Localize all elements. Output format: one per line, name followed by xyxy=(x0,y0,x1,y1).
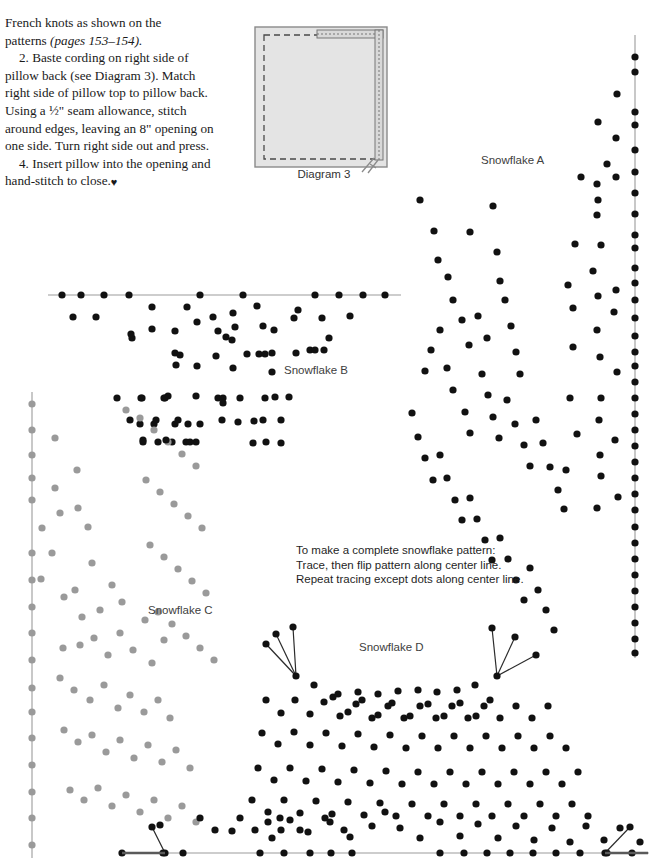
knot-dot xyxy=(466,494,473,501)
knot-dot xyxy=(631,506,638,513)
knot-dot xyxy=(446,768,453,775)
knot-dot xyxy=(532,416,539,423)
knot-dot xyxy=(74,738,81,745)
knot-dot xyxy=(158,758,165,765)
knot-dot xyxy=(136,808,143,815)
knot-dot xyxy=(636,838,643,845)
knot-dot xyxy=(148,325,155,332)
knot-dot xyxy=(176,351,183,358)
knot-dot xyxy=(600,836,607,843)
knot-dot xyxy=(374,690,381,697)
knot-dot xyxy=(429,476,436,483)
knot-dot xyxy=(184,512,191,519)
knot-dot xyxy=(286,816,293,823)
knot-dot xyxy=(328,810,335,817)
knot-dot xyxy=(37,575,44,582)
knot-dot xyxy=(444,273,451,280)
knot-dot xyxy=(88,731,95,738)
knot-dot xyxy=(443,364,450,371)
knot-dot xyxy=(228,827,235,834)
knot-dot xyxy=(461,408,468,415)
knot-dot xyxy=(631,523,638,530)
knot-dot xyxy=(141,616,148,623)
series-snowflake-d-spray-right xyxy=(488,624,539,679)
knot-dot xyxy=(256,849,263,856)
knot-dot xyxy=(529,849,536,856)
knot-dot xyxy=(614,493,621,500)
knot-dot xyxy=(631,362,638,369)
knot-dot xyxy=(631,68,638,75)
knot-dot xyxy=(285,393,292,400)
knot-dot xyxy=(464,714,471,721)
knot-dot xyxy=(327,849,334,856)
page-canvas: French knots as shown on the patterns (p… xyxy=(0,0,649,858)
knot-dot xyxy=(631,244,638,251)
knot-dot xyxy=(512,822,519,829)
spray-tip-dot xyxy=(488,624,495,631)
knot-dot xyxy=(28,656,35,663)
knot-dot xyxy=(384,702,391,709)
knot-dot xyxy=(456,699,463,706)
knot-dot xyxy=(318,314,325,321)
knot-dot xyxy=(86,696,93,703)
knot-dot xyxy=(56,509,63,516)
snowflake-d-label: Snowflake D xyxy=(359,641,424,653)
knot-dot xyxy=(202,589,209,596)
series-snowflake-d-field-dots xyxy=(248,681,591,819)
knot-dot xyxy=(259,322,266,329)
knot-dot xyxy=(474,820,481,827)
knot-dot xyxy=(28,814,35,821)
knot-dot xyxy=(562,744,569,751)
knot-dot xyxy=(302,777,309,784)
knot-dot xyxy=(243,350,250,357)
knot-dot xyxy=(28,474,35,481)
knot-dot xyxy=(146,541,153,548)
knot-dot xyxy=(148,303,155,310)
knot-dot xyxy=(334,778,341,785)
spray-tip-dot xyxy=(511,633,518,640)
knot-dot xyxy=(593,211,600,218)
knot-dot xyxy=(631,264,638,271)
knot-dot xyxy=(594,118,601,125)
knot-dot xyxy=(631,410,638,417)
knot-dot xyxy=(125,291,132,298)
knot-dot xyxy=(534,586,541,593)
knot-dot xyxy=(472,712,479,719)
knot-dot xyxy=(114,704,121,711)
knot-dot xyxy=(631,53,638,60)
knot-dot xyxy=(325,334,332,341)
knot-dot xyxy=(376,799,383,806)
knot-dot xyxy=(416,834,423,841)
knot-dot xyxy=(28,576,35,583)
knot-dot xyxy=(418,732,425,739)
knot-dot xyxy=(544,702,551,709)
knot-dot xyxy=(560,505,567,512)
knot-dot xyxy=(296,826,303,833)
knot-dot xyxy=(564,281,571,288)
knot-dot xyxy=(571,240,578,247)
knot-dot xyxy=(290,314,297,321)
knot-dot xyxy=(162,436,169,443)
knot-dot xyxy=(196,291,203,298)
knot-dot xyxy=(88,559,95,566)
knot-dot xyxy=(192,462,199,469)
knot-dot xyxy=(434,744,441,751)
spray-line xyxy=(492,628,497,676)
knot-dot xyxy=(408,800,415,807)
knot-dot xyxy=(631,426,638,433)
knot-dot xyxy=(171,327,178,334)
knot-dot xyxy=(456,812,463,819)
knot-dot xyxy=(346,833,353,840)
knot-dot xyxy=(631,490,638,497)
knot-dot xyxy=(366,779,373,786)
knot-dot xyxy=(129,646,136,653)
knot-dot xyxy=(311,291,318,298)
knot-dot xyxy=(74,504,81,511)
knot-dot xyxy=(584,812,591,819)
knot-dot xyxy=(69,313,76,320)
tracing-note: To make a complete snowflake pattern: Tr… xyxy=(296,543,524,587)
knot-dot xyxy=(354,730,361,737)
knot-dot xyxy=(154,438,161,445)
knot-dot xyxy=(450,732,457,739)
knot-dot xyxy=(612,134,619,141)
